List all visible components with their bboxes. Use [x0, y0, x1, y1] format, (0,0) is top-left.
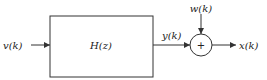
block-diagram: v(k) H(z) y(k) w(k) + x(k) [0, 0, 267, 80]
input-label: v(k) [3, 40, 23, 51]
noise-label: w(k) [190, 3, 213, 14]
block-label: H(z) [89, 40, 112, 51]
output-label: x(k) [239, 40, 259, 51]
y-label: y(k) [161, 30, 182, 41]
plus-sign: + [197, 40, 205, 51]
